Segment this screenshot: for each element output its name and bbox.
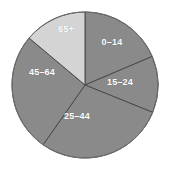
pie-slices-group bbox=[12, 12, 158, 158]
pie-chart-figure: 0–14 15–24 25–44 45–64 65+ bbox=[0, 0, 170, 170]
pie-chart-svg bbox=[0, 0, 170, 170]
